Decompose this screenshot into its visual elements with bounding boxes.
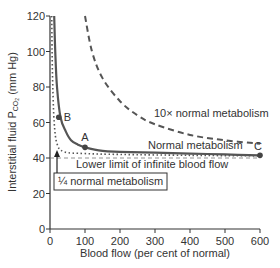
chart: 020406080100120 0100200300400500600 Bloo… <box>0 0 280 268</box>
data-point <box>82 145 88 151</box>
annotation-normal: Normal metabolism <box>148 139 243 151</box>
y-tick-label: 80 <box>33 81 45 93</box>
point-label: C <box>254 140 262 152</box>
y-tick-label: 0 <box>39 223 45 235</box>
data-point <box>56 114 62 120</box>
annotation-lower-limit: Lower limit of infinite blood flow <box>76 158 228 170</box>
y-ticks: 020406080100120 <box>27 10 50 235</box>
x-tick-label: 400 <box>181 235 199 247</box>
x-tick-label: 500 <box>216 235 234 247</box>
data-point <box>257 153 263 159</box>
y-axis-title: Interstitial fluid PCO2 (mm Hg) <box>6 52 20 192</box>
annotation-quarter-normal: ¼ normal metabolism <box>58 175 163 187</box>
y-tick-label: 100 <box>27 46 45 58</box>
series-line <box>85 16 260 144</box>
x-tick-label: 100 <box>76 235 94 247</box>
annotation-10x-normal: 10× normal metabolism <box>154 107 269 119</box>
point-label: A <box>81 131 89 143</box>
x-tick-label: 600 <box>251 235 269 247</box>
y-tick-label: 60 <box>33 117 45 129</box>
axes: 020406080100120 0100200300400500600 <box>27 10 270 247</box>
arrow-quarter <box>54 150 60 173</box>
x-tick-label: 200 <box>111 235 129 247</box>
x-tick-label: 300 <box>146 235 164 247</box>
y-tick-label: 20 <box>33 188 45 200</box>
x-ticks: 0100200300400500600 <box>47 229 269 247</box>
y-tick-label: 120 <box>27 10 45 22</box>
y-tick-label: 40 <box>33 152 45 164</box>
point-label: B <box>64 111 71 123</box>
x-axis-title: Blood flow (per cent of normal) <box>80 247 230 259</box>
x-tick-label: 0 <box>47 235 53 247</box>
